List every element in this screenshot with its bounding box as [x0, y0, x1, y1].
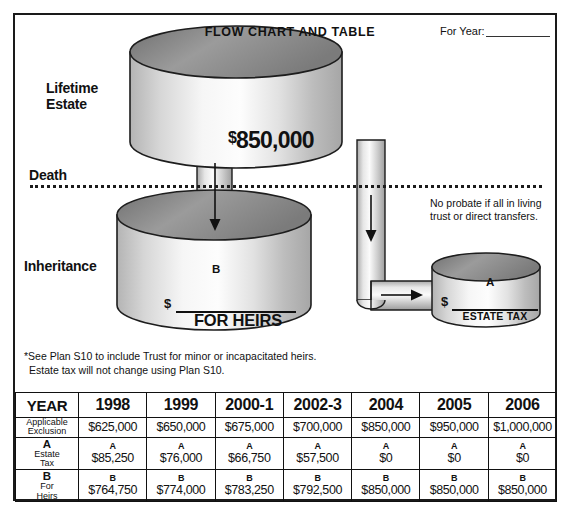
table-header-2004: 2004: [352, 393, 420, 418]
cell-forheirs-1998: B$764,750: [79, 469, 147, 501]
cell-estatetax-2002-3: A$57,500: [283, 437, 351, 469]
table-header-2002-3: 2002-3: [283, 393, 351, 418]
table-row: Applicable Exclusion $625,000 $650,000 $…: [16, 418, 557, 438]
death-divider-line: [30, 185, 542, 188]
row-label-line-2: Tax: [40, 458, 54, 468]
table-header-2006: 2006: [488, 393, 556, 418]
heirs-dollar-symbol: $: [164, 296, 171, 311]
cell-forheirs-2002-3: B$792,500: [283, 469, 351, 501]
cell-value: $792,500: [293, 483, 342, 497]
label-inheritance: Inheritance: [24, 259, 97, 275]
cell-forheirs-1999: B$774,000: [147, 469, 215, 501]
cell-forheirs-2005: B$850,000: [420, 469, 488, 501]
cell-value: $57,500: [296, 451, 338, 465]
label-death: Death: [29, 168, 67, 184]
cell-forheirs-2000-1: B$783,250: [215, 469, 283, 501]
cell-forheirs-2006: B$850,000: [488, 469, 556, 501]
cell-estatetax-2006: A$0: [488, 437, 556, 469]
cell-value: $783,250: [225, 483, 274, 497]
cell-estatetax-2004: A$0: [352, 437, 420, 469]
cell-value: $764,750: [88, 483, 137, 497]
cell-exclusion-1999: $650,000: [147, 418, 215, 438]
cell-value: $850,000: [361, 483, 410, 497]
cell-estatetax-1998: A$85,250: [79, 437, 147, 469]
cell-value: $0: [448, 451, 461, 465]
table-header-1998: 1998: [79, 393, 147, 418]
cell-estatetax-1999: A$76,000: [147, 437, 215, 469]
label-lifetime-estate: LifetimeEstate: [46, 81, 98, 112]
lifetime-estate-amount: $850,000: [228, 127, 314, 154]
table-row: B For Heirs B$764,750 B$774,000 B$783,25…: [16, 469, 557, 501]
cell-value: $0: [516, 451, 529, 465]
row-label-line-2: Heirs: [36, 491, 57, 501]
cell-exclusion-2004: $850,000: [352, 418, 420, 438]
row-label-estate-tax: A Estate Tax: [16, 437, 79, 469]
heirs-letter-b: B: [212, 263, 220, 275]
cell-exclusion-1998: $625,000: [79, 418, 147, 438]
cell-value: $850,000: [430, 483, 479, 497]
cell-value: $774,000: [156, 483, 205, 497]
cell-exclusion-2000-1: $675,000: [215, 418, 283, 438]
table-header-2005: 2005: [420, 393, 488, 418]
for-year-field[interactable]: For Year:: [440, 25, 550, 37]
cell-value: $66,750: [228, 451, 270, 465]
row-label-line-2: Exclusion: [28, 426, 67, 436]
estate-tax-caption: ESTATE TAX: [450, 310, 540, 322]
cell-exclusion-2006: $1,000,000: [488, 418, 556, 438]
cell-value: $85,250: [91, 451, 133, 465]
table-row: A Estate Tax A$85,250 A$76,000 A$66,750 …: [16, 437, 557, 469]
estate-tax-letter-a: A: [486, 276, 494, 288]
currency-symbol: $: [228, 129, 236, 146]
footnote: *See Plan S10 to include Trust for minor…: [24, 350, 464, 377]
flow-chart-page: FLOW CHART AND TABLE For Year: LifetimeE…: [0, 0, 573, 515]
for-year-blank-rule[interactable]: [486, 36, 550, 37]
estate-tax-table: YEAR 1998 1999 2000-1 2002-3 2004 2005 2…: [15, 392, 557, 502]
footnote-line-2: Estate tax will not change using Plan S1…: [24, 364, 464, 378]
cell-value: $76,000: [160, 451, 202, 465]
cell-value: $850,000: [498, 483, 547, 497]
table-header-1999: 1999: [147, 393, 215, 418]
cell-estatetax-2000-1: A$66,750: [215, 437, 283, 469]
heirs-caption: FOR HEIRS: [176, 311, 300, 330]
page-title: FLOW CHART AND TABLE: [175, 25, 405, 39]
table-header-row: YEAR 1998 1999 2000-1 2002-3 2004 2005 2…: [16, 393, 557, 418]
footnote-line-1: *See Plan S10 to include Trust for minor…: [24, 350, 316, 362]
row-label-for-heirs: B For Heirs: [16, 469, 79, 501]
row-label-applicable-exclusion: Applicable Exclusion: [16, 418, 79, 438]
cell-value: $0: [379, 451, 392, 465]
table-header-2000-1: 2000-1: [215, 393, 283, 418]
estate-tax-dollar-symbol: $: [441, 294, 448, 309]
table-header-year: YEAR: [16, 393, 79, 418]
cell-estatetax-2005: A$0: [420, 437, 488, 469]
lifetime-amount-value: 850,000: [236, 127, 314, 153]
cell-forheirs-2004: B$850,000: [352, 469, 420, 501]
cell-exclusion-2005: $950,000: [420, 418, 488, 438]
cell-exclusion-2002-3: $700,000: [283, 418, 351, 438]
probate-note: No probate if all in living trust or dir…: [430, 197, 552, 223]
for-year-label: For Year:: [440, 25, 485, 37]
